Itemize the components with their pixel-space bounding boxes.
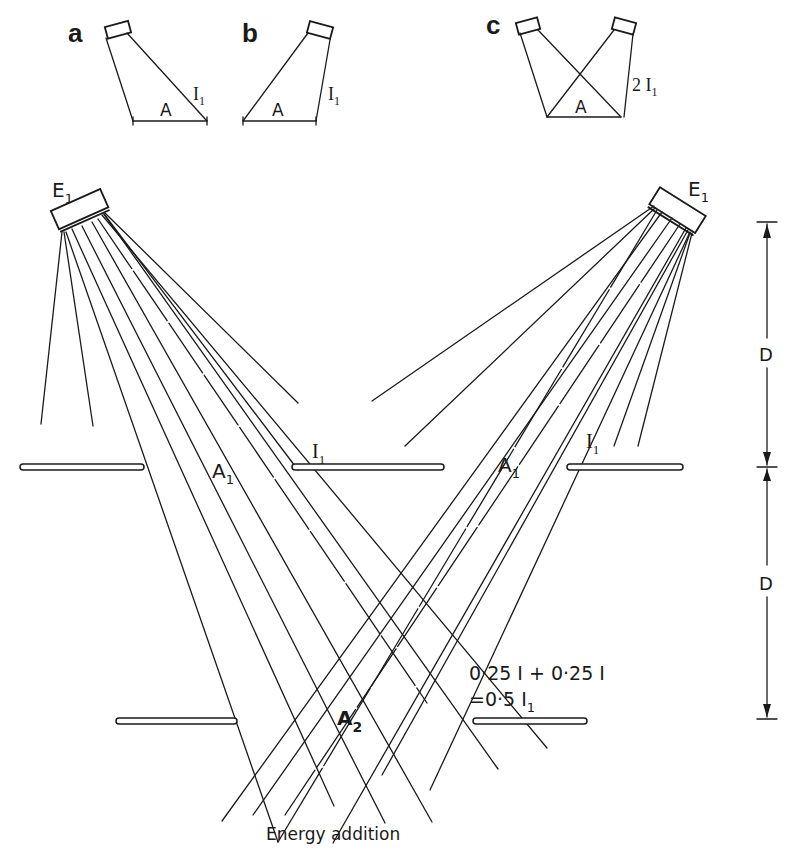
inset-c-area-label: A [575,97,587,117]
inset-b-source-icon [307,21,333,39]
energy-equation: 0·25 I + 0·25 I =0·5 I1 [469,662,605,715]
area-a1-left-label: A1 [212,459,234,487]
panel-label-b: b [242,18,258,48]
inset-c-intensity-label: 2 I1 [632,75,658,99]
plane1-center-segment [292,464,444,470]
figure-caption: Energy addition [266,824,400,844]
panel-label-c: c [486,10,500,40]
dimension-markers: D D [757,222,777,719]
plane1-right-segment [567,464,683,470]
inset-c-left-source-icon [516,17,540,34]
inset-a-area-label: A [160,100,172,120]
equation-line-2: =0·5 I1 [469,688,535,715]
intensity-i1-right-label: I1 [586,430,599,457]
inset-a-source-icon [105,21,131,39]
inset-c-right-source-icon [612,17,636,34]
dimension-d-lower-label: D [759,573,773,594]
inset-a: a A I1 [68,18,207,125]
plane2-right-segment [473,718,587,724]
right-source-rays [222,206,692,843]
plane2-left-segment [116,718,237,724]
inset-a-intensity-label: I1 [193,84,205,108]
equation-line-1: 0·25 I + 0·25 I [469,662,605,684]
dimension-d-upper-label: D [759,344,773,365]
inset-c: c A 2 I1 [486,10,658,117]
inset-b-area-label: A [272,100,284,120]
left-source-rays [41,213,547,842]
plane1-left-segment [20,464,144,470]
inset-b: b A I1 [242,18,340,125]
intensity-i1-center-label: I1 [312,440,325,467]
panel-label-a: a [68,18,83,48]
first-plane [20,464,683,470]
right-source-label: E1 [688,177,709,205]
inset-b-intensity-label: I1 [328,84,340,108]
energy-addition-diagram: a A I1 b A I1 c [0,0,788,854]
area-a1-right-label: A1 [498,453,520,481]
